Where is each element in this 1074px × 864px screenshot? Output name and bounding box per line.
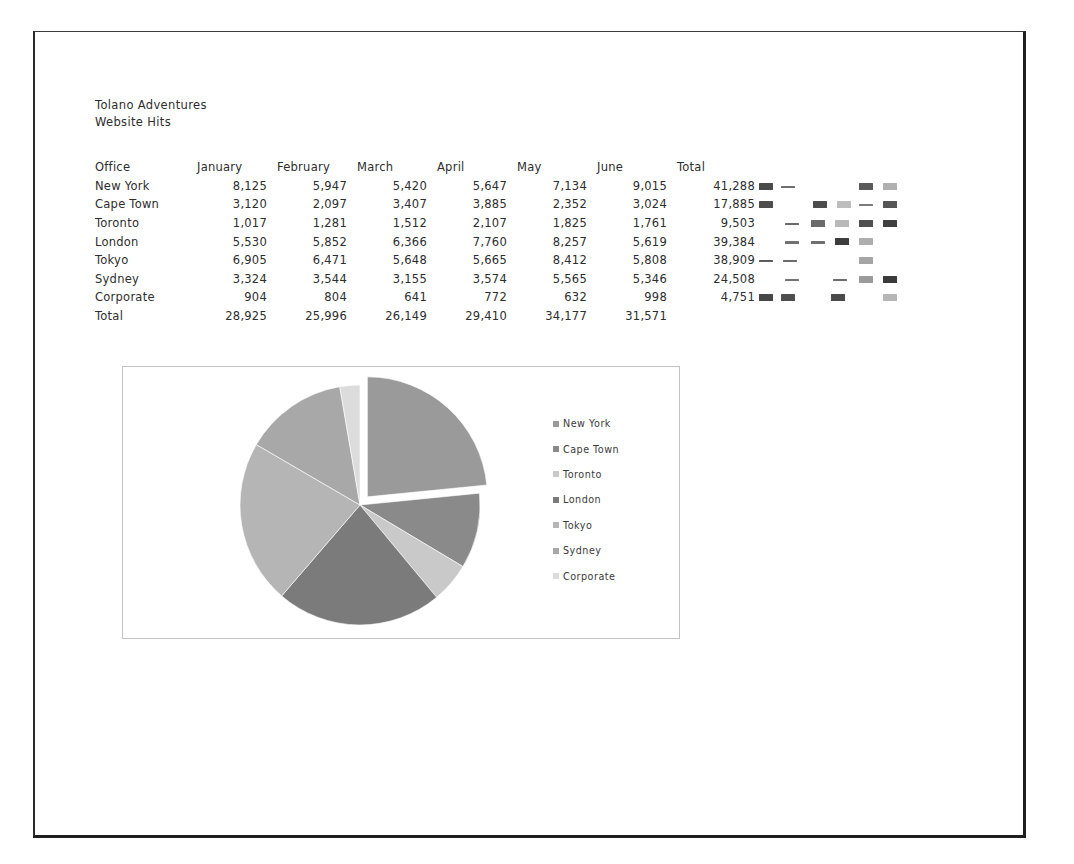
cell-sparkline-marks [759,177,914,196]
sparkline-mark [859,238,873,245]
cell-april: 3,574 [431,270,511,289]
table-header-row: Office January February March April May … [95,158,914,177]
cell-sparkline-marks [759,251,914,270]
cell-office: London [95,232,191,251]
sparkline-mark [883,183,897,190]
pie-chart-plot-area[interactable] [235,369,497,637]
pie-slice-new-york[interactable] [367,377,486,497]
legend-label: Toronto [563,469,602,480]
cell-march: 641 [351,288,431,307]
cell-march: 6,366 [351,232,431,251]
table-row: Corporate9048046417726329984,751 [95,288,914,307]
legend-item[interactable]: Corporate [553,563,657,588]
table-row: Sydney3,3243,5443,1553,5745,5655,34624,5… [95,270,914,289]
column-header-june: June [591,158,671,177]
legend-item[interactable]: Cape Town [553,436,657,461]
legend-swatch-icon [553,471,559,477]
legend-item[interactable]: Tokyo [553,513,657,538]
cell-june: 5,619 [591,232,671,251]
pie-chart-svg[interactable] [235,369,497,637]
cell-january: 5,530 [191,232,271,251]
table-header: Office January February March April May … [95,158,914,177]
sparkline-mark [759,183,773,190]
sparkline-mark [883,294,897,301]
legend-item[interactable]: New York [553,411,657,436]
sparkline-mark [781,294,795,301]
sparkline-mark [859,257,873,264]
cell-april: 772 [431,288,511,307]
cell-total: 38,909 [671,251,759,270]
cell-sparkline-marks [759,232,914,251]
total-cell-may: 34,177 [511,307,591,326]
legend-item[interactable]: Sydney [553,538,657,563]
cell-february: 804 [271,288,351,307]
column-header-total: Total [671,158,759,177]
cell-may: 8,257 [511,232,591,251]
column-header-office: Office [95,158,191,177]
pie-chart-frame[interactable]: New YorkCape TownTorontoLondonTokyoSydne… [122,366,680,639]
legend-label: Cape Town [563,444,619,455]
sparkline-mark [883,220,897,227]
legend-swatch-icon [553,548,559,554]
website-hits-table: Office January February March April May … [95,158,914,325]
cell-office: Cape Town [95,195,191,214]
table-row: London5,5305,8526,3667,7608,2575,61939,3… [95,232,914,251]
legend-label: New York [563,418,611,429]
legend-swatch-icon [553,573,559,579]
cell-january: 8,125 [191,177,271,196]
legend-swatch-icon [553,421,559,427]
sparkline-mark [859,276,873,283]
cell-february: 3,544 [271,270,351,289]
sparkline-mark [811,241,825,243]
total-cell-march: 26,149 [351,307,431,326]
cell-may: 1,825 [511,214,591,233]
column-header-marks [759,158,914,177]
cell-sparkline-marks [759,214,914,233]
table-row: Cape Town3,1202,0973,4073,8852,3523,0241… [95,195,914,214]
cell-total: 17,885 [671,195,759,214]
legend-label: Tokyo [563,520,592,531]
column-header-february: February [271,158,351,177]
sparkline-mark [759,294,773,301]
cell-april: 5,665 [431,251,511,270]
legend-swatch-icon [553,497,559,503]
legend-swatch-icon [553,446,559,452]
sparkline-mark [859,183,873,190]
cell-june: 9,015 [591,177,671,196]
cell-office: New York [95,177,191,196]
cell-june: 998 [591,288,671,307]
cell-may: 632 [511,288,591,307]
cell-january: 904 [191,288,271,307]
column-header-april: April [431,158,511,177]
total-cell-office: Total [95,307,191,326]
cell-sparkline-marks [759,195,914,214]
cell-april: 2,107 [431,214,511,233]
column-header-january: January [191,158,271,177]
cell-february: 1,281 [271,214,351,233]
sparkline-mark [785,279,799,281]
sparkline-mark [811,220,825,227]
cell-april: 5,647 [431,177,511,196]
sparkline-mark [859,220,873,227]
cell-january: 3,324 [191,270,271,289]
sparkline-mark [785,241,799,243]
legend-swatch-icon [553,522,559,528]
table-total-row: Total28,92525,99626,14929,41034,17731,57… [95,307,914,326]
cell-total: 9,503 [671,214,759,233]
cell-june: 3,024 [591,195,671,214]
cell-total: 24,508 [671,270,759,289]
cell-office: Corporate [95,288,191,307]
total-cell-june: 31,571 [591,307,671,326]
legend-item[interactable]: London [553,487,657,512]
legend-item[interactable]: Toronto [553,462,657,487]
cell-march: 3,155 [351,270,431,289]
table-row: Tokyo6,9056,4715,6485,6658,4125,80838,90… [95,251,914,270]
cell-january: 3,120 [191,195,271,214]
report-heading: Tolano Adventures Website Hits [95,97,207,131]
cell-april: 3,885 [431,195,511,214]
sparkline-mark [783,260,797,262]
legend-label: Sydney [563,545,602,556]
cell-april: 7,760 [431,232,511,251]
total-cell-marks [759,307,914,326]
cell-february: 6,471 [271,251,351,270]
